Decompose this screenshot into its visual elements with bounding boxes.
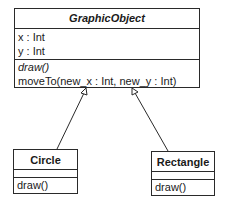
operations-compartment: draw() moveTo(new_x : Int, new_y : Int) bbox=[15, 60, 199, 87]
operations-compartment: draw() bbox=[152, 180, 214, 194]
class-circle[interactable]: Circle draw() bbox=[13, 149, 78, 194]
circle-generalization-line bbox=[57, 93, 84, 149]
attributes-compartment bbox=[152, 172, 214, 180]
attributes-compartment: x : Int y : Int bbox=[15, 29, 199, 60]
attributes-compartment bbox=[14, 170, 77, 178]
class-graphic-object[interactable]: GraphicObject x : Int y : Int draw() mov… bbox=[14, 8, 200, 88]
attribute-x: x : Int bbox=[18, 30, 199, 44]
class-name: GraphicObject bbox=[15, 9, 199, 29]
operation-draw: draw() bbox=[18, 60, 199, 74]
circle-generalization-arrowhead-icon bbox=[81, 88, 87, 95]
rectangle-generalization-arrowhead-icon bbox=[132, 88, 138, 95]
class-rectangle[interactable]: Rectangle draw() bbox=[151, 151, 215, 196]
operation-draw: draw() bbox=[17, 178, 77, 192]
class-name: Circle bbox=[14, 150, 77, 170]
attribute-y: y : Int bbox=[18, 44, 199, 58]
operation-draw: draw() bbox=[155, 180, 214, 194]
rectangle-generalization-line bbox=[135, 93, 168, 151]
class-name: Rectangle bbox=[152, 152, 214, 172]
operations-compartment: draw() bbox=[14, 178, 77, 192]
operation-move-to: moveTo(new_x : Int, new_y : Int) bbox=[18, 74, 199, 88]
